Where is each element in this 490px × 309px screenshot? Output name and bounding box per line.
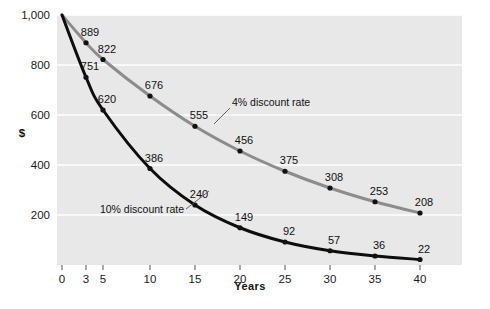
svg-text:676: 676 bbox=[145, 79, 163, 91]
svg-text:92: 92 bbox=[283, 225, 295, 237]
svg-text:620: 620 bbox=[98, 93, 116, 105]
svg-text:5: 5 bbox=[100, 273, 106, 285]
svg-text:200: 200 bbox=[31, 209, 50, 221]
chart-container: 2004006008001,000 $ 03510152025303540 Ye… bbox=[0, 0, 490, 309]
svg-text:822: 822 bbox=[98, 43, 116, 55]
svg-text:555: 555 bbox=[190, 109, 208, 121]
svg-text:149: 149 bbox=[235, 211, 253, 223]
svg-text:15: 15 bbox=[189, 273, 202, 285]
svg-text:208: 208 bbox=[415, 196, 433, 208]
svg-text:800: 800 bbox=[31, 59, 50, 71]
svg-text:600: 600 bbox=[31, 109, 50, 121]
annotation-label-10-percent: 10% discount rate bbox=[100, 203, 184, 215]
x-axis-title: Years bbox=[234, 280, 265, 292]
svg-text:889: 889 bbox=[81, 26, 99, 38]
svg-text:0: 0 bbox=[59, 273, 65, 285]
svg-text:22: 22 bbox=[418, 243, 430, 255]
svg-text:456: 456 bbox=[235, 134, 253, 146]
plot-panel-background bbox=[57, 15, 462, 265]
svg-text:25: 25 bbox=[279, 273, 292, 285]
svg-text:40: 40 bbox=[414, 273, 427, 285]
svg-text:1,000: 1,000 bbox=[21, 9, 50, 21]
svg-text:386: 386 bbox=[145, 152, 163, 164]
svg-text:253: 253 bbox=[370, 185, 388, 197]
y-axis-title: $ bbox=[19, 127, 26, 139]
svg-text:35: 35 bbox=[369, 273, 382, 285]
svg-text:751: 751 bbox=[81, 60, 99, 72]
svg-text:36: 36 bbox=[373, 239, 385, 251]
svg-text:30: 30 bbox=[324, 273, 337, 285]
svg-text:3: 3 bbox=[83, 273, 89, 285]
svg-text:10: 10 bbox=[144, 273, 157, 285]
svg-text:57: 57 bbox=[328, 234, 340, 246]
svg-text:400: 400 bbox=[31, 159, 50, 171]
svg-text:308: 308 bbox=[325, 171, 343, 183]
annotation-label-4-percent: 4% discount rate bbox=[232, 96, 310, 108]
svg-text:375: 375 bbox=[280, 154, 298, 166]
